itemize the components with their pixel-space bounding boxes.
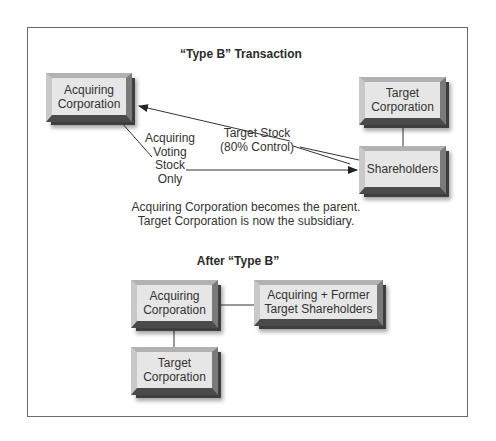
shareholders-label: Shareholders <box>367 162 438 176</box>
after-acquiring-line1: Acquiring <box>143 289 206 303</box>
after-shareholders-line2: Target Shareholders <box>264 302 372 316</box>
acquiring-corporation-line2: Corporation <box>58 97 121 111</box>
acquiring-corporation-line1: Acquiring <box>58 83 121 97</box>
after-target-line2: Corporation <box>143 370 206 384</box>
target-corporation-box: Target Corporation <box>359 77 446 125</box>
caption-line2: Target Corporation is now the subsidiary… <box>130 214 362 228</box>
voting-stock-line3: Stock <box>140 159 200 173</box>
type-b-transaction-title: “Type B” Transaction <box>180 47 300 61</box>
transaction-caption: Acquiring Corporation becomes the parent… <box>130 200 362 228</box>
after-shareholders-line1: Acquiring + Former <box>264 288 372 302</box>
caption-line1: Acquiring Corporation becomes the parent… <box>130 200 362 214</box>
after-acquiring-corporation-box: Acquiring Corporation <box>131 280 218 328</box>
target-stock-label: Target Stock (80% Control) <box>212 126 302 154</box>
after-shareholders-box: Acquiring + Former Target Shareholders <box>254 280 383 326</box>
after-target-line1: Target <box>143 356 206 370</box>
voting-stock-line1: Acquiring <box>140 132 200 146</box>
target-stock-line2: (80% Control) <box>212 140 302 154</box>
after-type-b-title: After “Type B” <box>196 254 280 268</box>
voting-stock-line4: Only <box>140 173 200 187</box>
voting-stock-line2: Voting <box>140 146 200 160</box>
acquiring-voting-stock-label: Acquiring Voting Stock Only <box>140 132 200 186</box>
after-acquiring-line2: Corporation <box>143 303 206 317</box>
target-corporation-line1: Target <box>371 86 434 100</box>
shareholders-box: Shareholders <box>359 146 446 194</box>
acquiring-corporation-box: Acquiring Corporation <box>46 73 132 122</box>
target-corporation-line2: Corporation <box>371 100 434 114</box>
after-target-corporation-box: Target Corporation <box>131 347 218 395</box>
target-stock-line1: Target Stock <box>212 126 302 140</box>
